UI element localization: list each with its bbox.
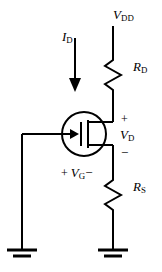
source-wire — [99, 145, 113, 175]
label-rd: RD — [133, 60, 148, 73]
label-vg-symbol: V — [71, 165, 79, 180]
label-rd-subscript: D — [141, 65, 148, 75]
ground-symbol-source — [98, 250, 128, 256]
label-vd-minus-sign: − — [121, 146, 128, 159]
label-rs: RS — [133, 180, 146, 193]
ground-symbol-gate — [7, 250, 37, 256]
label-vdd-subscript: DD — [121, 13, 134, 23]
resistor-rs-zigzag — [105, 175, 121, 250]
label-rs-symbol: R — [133, 179, 141, 194]
gate-wire — [22, 134, 62, 250]
label-rs-subscript: S — [141, 185, 146, 195]
label-rd-symbol: R — [133, 59, 141, 74]
circuit-diagram-canvas: VDD RD ID + VD − +VG− RS — [0, 0, 162, 272]
label-vg: +VG− — [61, 166, 93, 179]
label-vdd-symbol: V — [113, 7, 121, 22]
drain-current-arrow — [69, 38, 81, 92]
mosfet-gate-arrowhead — [70, 129, 79, 139]
circuit-schematic-svg — [0, 0, 162, 272]
label-vdd: VDD — [113, 8, 134, 21]
label-id: ID — [62, 30, 73, 43]
current-arrow-head — [69, 78, 81, 92]
label-vg-subscript: G — [79, 171, 86, 181]
mosfet-symbol — [62, 112, 106, 156]
resistor-rd-zigzag — [105, 55, 121, 122]
label-vg-plus-sign: + — [61, 166, 68, 180]
resistor-rs — [105, 175, 121, 250]
label-vd: VD — [120, 128, 135, 141]
label-vd-plus-sign: + — [121, 113, 128, 125]
label-vd-subscript: D — [128, 133, 135, 143]
label-vd-symbol: V — [120, 127, 128, 142]
label-id-subscript: D — [66, 35, 73, 45]
resistor-rd — [105, 55, 121, 122]
label-vg-minus-sign: − — [85, 165, 92, 180]
